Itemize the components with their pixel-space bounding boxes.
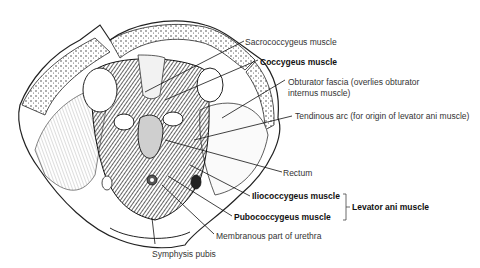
pelvis-illustration: [0, 0, 480, 268]
label-obturator-fascia-line1: Obturator fascia (overlies obturator: [288, 77, 419, 87]
label-levator-ani: Levator ani muscle: [352, 202, 429, 212]
label-tendinous-arc: Tendinous arc (for origin of levator ani…: [295, 111, 469, 121]
label-obturator-fascia-line2: internus muscle): [288, 88, 350, 98]
label-rectum: Rectum: [283, 168, 312, 178]
pelvic-diaphragm-figure: Sacrococcygeus muscle Coccygeus muscle O…: [0, 0, 480, 268]
label-coccygeus: Coccygeus muscle: [260, 57, 337, 67]
label-symphysis-pubis: Symphysis pubis: [152, 249, 216, 259]
label-iliococcygeus: Iliococcygeus muscle: [252, 191, 340, 201]
label-pubococcygeus: Pubococcygeus muscle: [234, 212, 331, 222]
label-membranous-urethra: Membranous part of urethra: [216, 231, 321, 241]
label-sacrococcygeus: Sacrococcygeus muscle: [245, 37, 337, 47]
